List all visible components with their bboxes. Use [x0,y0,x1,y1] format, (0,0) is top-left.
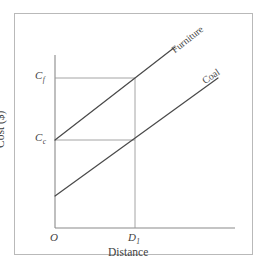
x-axis-title: Distance [108,247,148,259]
y-tick-label-cc-sub: c [43,137,46,146]
y-tick-label-cf-base: C [35,69,42,81]
y-tick-label-cf: Cf [35,70,44,81]
x-tick-label-d1-sub: 1 [136,237,140,246]
figure-container: Cf Cc O D1 Distance Cost ($) Furniture C… [0,0,268,266]
x-axis-origin-label: O [50,232,58,243]
y-tick-label-cc: Cc [35,132,46,143]
series-line-coal [55,78,218,196]
y-tick-label-cf-sub: f [43,75,45,84]
series-line-furniture [55,47,175,140]
y-tick-label-cc-base: C [35,131,42,143]
x-tick-label-d1: D1 [128,232,140,243]
x-tick-label-d1-base: D [128,231,136,243]
y-axis-title: Cost ($) [0,111,7,148]
